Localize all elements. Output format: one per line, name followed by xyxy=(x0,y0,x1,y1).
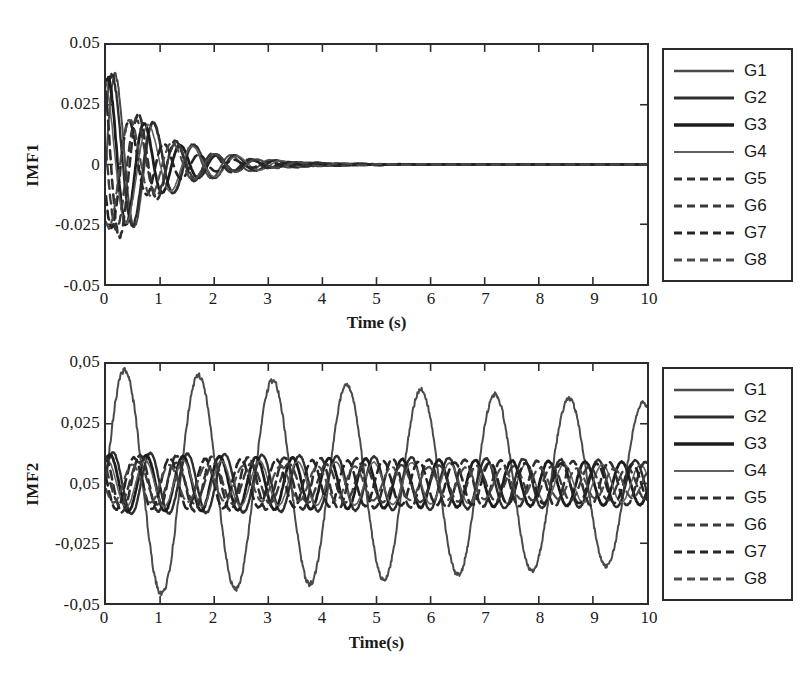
series-line-g4 xyxy=(106,82,647,224)
legend-item-g4[interactable]: G4 xyxy=(664,138,791,165)
legend-swatch-g5 xyxy=(673,172,735,186)
y-tick-label: 0,05 xyxy=(8,353,100,370)
x-tick-label: 1 xyxy=(139,289,179,309)
legend-label: G4 xyxy=(744,462,767,479)
legend-label: G4 xyxy=(744,143,767,160)
legend-item-g7[interactable]: G7 xyxy=(664,219,791,246)
x-tick-label: 2 xyxy=(193,289,233,309)
legend-swatch-g1 xyxy=(673,64,735,78)
x-axis-labels-imf1: 012345678910 xyxy=(104,289,649,313)
legend-imf1: G1G2G3G4G5G6G7G8 xyxy=(662,48,793,282)
y-axis-title-imf2: IMF2 xyxy=(23,439,43,529)
y-tick-label: -0,025 xyxy=(8,535,100,552)
legend-label: G7 xyxy=(744,224,767,241)
legend-item-g1[interactable]: G1 xyxy=(664,57,791,84)
legend-label: G6 xyxy=(744,516,767,533)
legend-swatch-g7 xyxy=(673,226,735,240)
x-tick-label: 0 xyxy=(84,608,124,628)
legend-swatch-g1 xyxy=(673,383,735,397)
figure-imf-oscillations: 0.050.0250-0.025-0.05 IMF1 012345678910 … xyxy=(0,0,803,686)
y-tick-label: 0,05 xyxy=(8,475,100,492)
x-tick-label: 4 xyxy=(302,608,342,628)
legend-item-g7[interactable]: G7 xyxy=(664,538,791,565)
legend-item-g5[interactable]: G5 xyxy=(664,165,791,192)
x-tick-label: 10 xyxy=(629,289,669,309)
legend-swatch-g3 xyxy=(673,118,735,132)
legend-label: G2 xyxy=(744,89,767,106)
x-axis-title-imf1: Time (s) xyxy=(104,313,649,333)
y-axis-title-imf1: IMF1 xyxy=(23,120,43,210)
panel-imf1: 0.050.0250-0.025-0.05 IMF1 012345678910 … xyxy=(0,0,803,345)
x-axis-title-imf2: Time(s) xyxy=(104,633,649,653)
panel-imf2: 0,050,0250,05-0,025-0,05 IMF2 0123456789… xyxy=(0,341,803,686)
y-tick-label: 0.025 xyxy=(8,95,100,112)
legend-item-g2[interactable]: G2 xyxy=(664,84,791,111)
x-tick-label: 5 xyxy=(357,608,397,628)
x-tick-label: 5 xyxy=(357,289,397,309)
legend-label: G2 xyxy=(744,408,767,425)
legend-label: G1 xyxy=(744,62,767,79)
legend-swatch-g4 xyxy=(673,464,735,478)
legend-item-g6[interactable]: G6 xyxy=(664,511,791,538)
series-line-g8 xyxy=(106,120,647,229)
legend-label: G8 xyxy=(744,570,767,587)
legend-item-g8[interactable]: G8 xyxy=(664,565,791,592)
legend-swatch-g4 xyxy=(673,145,735,159)
legend-label: G6 xyxy=(744,197,767,214)
x-tick-label: 6 xyxy=(411,289,451,309)
legend-label: G7 xyxy=(744,543,767,560)
x-tick-label: 3 xyxy=(248,608,288,628)
x-tick-label: 8 xyxy=(520,289,560,309)
legend-item-g2[interactable]: G2 xyxy=(664,403,791,430)
legend-label: G3 xyxy=(744,116,767,133)
legend-swatch-g8 xyxy=(673,253,735,267)
y-tick-label: 0,025 xyxy=(8,414,100,431)
plot-area-imf2 xyxy=(104,362,649,605)
legend-item-g6[interactable]: G6 xyxy=(664,192,791,219)
legend-item-g4[interactable]: G4 xyxy=(664,457,791,484)
x-tick-label: 3 xyxy=(248,289,288,309)
x-tick-label: 1 xyxy=(139,608,179,628)
legend-label: G8 xyxy=(744,251,767,268)
legend-swatch-g6 xyxy=(673,199,735,213)
x-tick-label: 9 xyxy=(575,608,615,628)
legend-item-g3[interactable]: G3 xyxy=(664,111,791,138)
legend-label: G1 xyxy=(744,381,767,398)
x-tick-label: 6 xyxy=(411,608,451,628)
x-axis-labels-imf2: 012345678910 xyxy=(104,608,649,632)
y-tick-label: 0.05 xyxy=(8,34,100,51)
x-tick-label: 0 xyxy=(84,289,124,309)
legend-swatch-g3 xyxy=(673,437,735,451)
x-tick-label: 2 xyxy=(193,608,233,628)
legend-item-g3[interactable]: G3 xyxy=(664,430,791,457)
legend-label: G3 xyxy=(744,435,767,452)
legend-swatch-g8 xyxy=(673,572,735,586)
legend-item-g1[interactable]: G1 xyxy=(664,376,791,403)
y-tick-label: -0.025 xyxy=(8,216,100,233)
x-tick-label: 7 xyxy=(466,289,506,309)
x-tick-label: 9 xyxy=(575,289,615,309)
plot-curves-imf2 xyxy=(106,364,647,603)
x-tick-label: 7 xyxy=(466,608,506,628)
legend-swatch-g6 xyxy=(673,518,735,532)
legend-swatch-g7 xyxy=(673,545,735,559)
x-tick-label: 4 xyxy=(302,289,342,309)
plot-curves-imf1 xyxy=(106,45,647,284)
legend-swatch-g2 xyxy=(673,410,735,424)
legend-imf2: G1G2G3G4G5G6G7G8 xyxy=(662,367,793,601)
legend-label: G5 xyxy=(744,489,767,506)
y-axis-labels-imf1: 0.050.0250-0.025-0.05 xyxy=(0,43,100,286)
y-tick-label: 0 xyxy=(8,156,100,173)
legend-item-g8[interactable]: G8 xyxy=(664,246,791,273)
legend-swatch-g5 xyxy=(673,491,735,505)
x-tick-label: 8 xyxy=(520,608,560,628)
x-tick-label: 10 xyxy=(629,608,669,628)
legend-swatch-g2 xyxy=(673,91,735,105)
y-axis-labels-imf2: 0,050,0250,05-0,025-0,05 xyxy=(0,362,100,605)
legend-item-g5[interactable]: G5 xyxy=(664,484,791,511)
legend-label: G5 xyxy=(744,170,767,187)
series-line-g1 xyxy=(106,368,647,595)
plot-area-imf1 xyxy=(104,43,649,286)
